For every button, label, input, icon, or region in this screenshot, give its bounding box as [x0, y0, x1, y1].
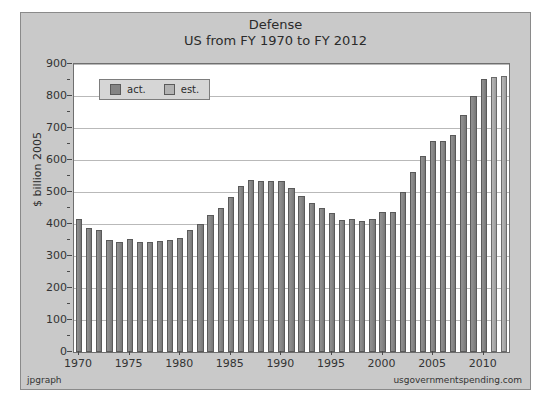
- y-axis-title: $ billion 2005: [31, 110, 44, 230]
- legend-label-act: act.: [127, 84, 146, 95]
- bar-1971: [86, 228, 92, 352]
- y-tick-label: 600: [46, 153, 67, 166]
- x-tick-label: 2005: [418, 357, 446, 370]
- y-tick-mark-minor: [67, 239, 70, 240]
- x-tick-label: 2000: [368, 357, 396, 370]
- legend-item-est: est.: [164, 84, 199, 95]
- bar-1977: [147, 242, 153, 352]
- footer-credit-right: usgovernmentspending.com: [393, 375, 522, 385]
- bar-2004: [420, 156, 426, 352]
- bar-1984: [218, 208, 224, 352]
- y-tick-mark: [67, 223, 72, 224]
- y-tick-label: 400: [46, 217, 67, 230]
- y-tick-mark: [67, 191, 72, 192]
- x-tick-label: 1990: [266, 357, 294, 370]
- bar-2012: [501, 76, 507, 352]
- bar-1983: [207, 215, 213, 352]
- bar-1978: [157, 241, 163, 352]
- plot-area: [73, 63, 510, 353]
- chart-frame: Defense US from FY 1970 to FY 2012 01002…: [20, 12, 531, 390]
- y-tick-label: 800: [46, 89, 67, 102]
- gridline: [74, 128, 509, 129]
- y-tick-label: 100: [46, 313, 67, 326]
- y-tick-mark-minor: [67, 303, 70, 304]
- x-tick-label: 1985: [216, 357, 244, 370]
- bar-2000: [379, 212, 385, 352]
- x-tick-mark: [179, 351, 180, 355]
- bar-1995: [329, 213, 335, 352]
- y-tick-mark: [67, 127, 72, 128]
- bar-1980: [177, 238, 183, 352]
- bar-1997: [349, 219, 355, 352]
- x-tick-mark: [78, 351, 79, 355]
- footer-credit-left: jpgraph: [27, 375, 62, 385]
- bar-2002: [400, 192, 406, 352]
- bar-1974: [116, 242, 122, 352]
- legend-item-act: act.: [110, 84, 146, 95]
- legend-swatch-act-icon: [110, 84, 121, 95]
- bar-2010: [481, 79, 487, 352]
- y-tick-label: 300: [46, 249, 67, 262]
- bar-1989: [268, 181, 274, 352]
- y-tick-mark: [67, 287, 72, 288]
- y-tick-mark-minor: [67, 143, 70, 144]
- y-tick-mark: [67, 63, 72, 64]
- y-tick-mark: [67, 255, 72, 256]
- bar-2009: [470, 96, 476, 352]
- y-tick-mark-minor: [67, 207, 70, 208]
- bar-1985: [228, 197, 234, 352]
- bar-1993: [309, 203, 315, 352]
- y-tick-mark: [67, 319, 72, 320]
- y-tick-label: 700: [46, 121, 67, 134]
- bar-1991: [288, 188, 294, 352]
- bar-1970: [76, 219, 82, 352]
- legend-label-est: est.: [181, 84, 199, 95]
- x-tick-label: 1980: [165, 357, 193, 370]
- x-tick-label: 2010: [469, 357, 497, 370]
- legend-swatch-est-icon: [164, 84, 175, 95]
- y-tick-mark-minor: [67, 111, 70, 112]
- bar-1987: [248, 180, 254, 352]
- bar-2003: [410, 172, 416, 352]
- bar-2008: [460, 115, 466, 352]
- y-tick-mark: [67, 351, 72, 352]
- chart-legend: act. est.: [99, 79, 210, 100]
- bar-1976: [137, 242, 143, 352]
- y-tick-mark: [67, 159, 72, 160]
- y-tick-label: 500: [46, 185, 67, 198]
- bar-2011: [491, 77, 497, 352]
- y-tick-mark: [67, 95, 72, 96]
- x-axis-labels: 197019751980198519901995200020052010: [73, 355, 510, 373]
- x-tick-mark: [331, 351, 332, 355]
- bar-1973: [106, 240, 112, 352]
- page-title: Defense: [21, 17, 530, 33]
- x-tick-mark: [432, 351, 433, 355]
- x-tick-mark: [129, 351, 130, 355]
- bar-2006: [440, 141, 446, 352]
- chart-title-block: Defense US from FY 1970 to FY 2012: [21, 17, 530, 49]
- chart-subtitle: US from FY 1970 to FY 2012: [21, 33, 530, 49]
- bar-1996: [339, 220, 345, 352]
- x-tick-label: 1975: [115, 357, 143, 370]
- x-tick-mark: [230, 351, 231, 355]
- bar-1999: [369, 219, 375, 352]
- bar-1986: [238, 186, 244, 352]
- y-tick-label: 200: [46, 281, 67, 294]
- x-tick-label: 1970: [64, 357, 92, 370]
- bar-2007: [450, 135, 456, 352]
- y-tick-label: 0: [60, 345, 67, 358]
- y-tick-mark-minor: [67, 175, 70, 176]
- gridline: [74, 64, 509, 65]
- bar-2005: [430, 141, 436, 352]
- x-tick-mark: [483, 351, 484, 355]
- bar-1975: [127, 239, 133, 352]
- bar-1981: [187, 230, 193, 352]
- bar-1992: [298, 196, 304, 352]
- y-tick-label: 900: [46, 57, 67, 70]
- y-axis-labels: 0100200300400500600700800900: [21, 63, 67, 353]
- bar-2001: [390, 212, 396, 352]
- bar-1998: [359, 221, 365, 352]
- bar-1972: [96, 230, 102, 352]
- y-tick-mark-minor: [67, 271, 70, 272]
- bar-1982: [197, 224, 203, 352]
